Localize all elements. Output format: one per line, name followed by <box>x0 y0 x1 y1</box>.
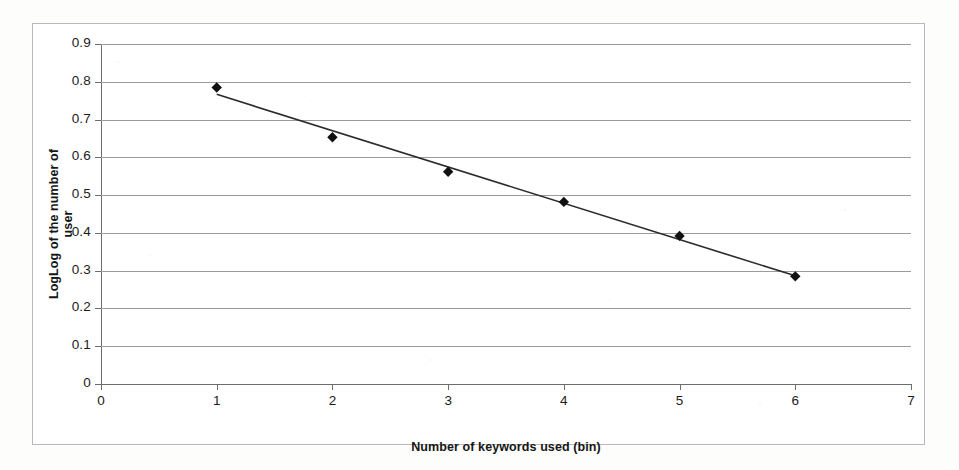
y-tick-label: 0.1 <box>29 337 91 352</box>
x-tick <box>564 384 565 390</box>
x-tick <box>680 384 681 390</box>
gridline <box>101 233 911 234</box>
x-axis-line <box>101 384 911 385</box>
gridline <box>101 271 911 272</box>
gridline <box>101 82 911 83</box>
gridline <box>101 157 911 158</box>
gridline <box>101 195 911 196</box>
x-tick-label: 7 <box>891 393 931 408</box>
x-tick-label: 6 <box>775 393 815 408</box>
chart-frame: 0.90.80.70.60.50.40.30.20.10 01234567 Nu… <box>32 23 925 445</box>
x-tick <box>448 384 449 390</box>
x-tick-label: 4 <box>544 393 584 408</box>
y-axis-title: LogLog of the number of user <box>47 134 75 314</box>
x-tick <box>795 384 796 390</box>
gridline <box>101 346 911 347</box>
x-tick <box>101 384 102 390</box>
x-tick-label: 2 <box>312 393 352 408</box>
y-tick-label: 0.7 <box>29 111 91 126</box>
x-tick-label: 5 <box>660 393 700 408</box>
x-tick-label: 3 <box>428 393 468 408</box>
gridline <box>101 120 911 121</box>
x-axis-title: Number of keywords used (bin) <box>101 440 911 454</box>
x-tick <box>217 384 218 390</box>
gridline <box>101 308 911 309</box>
y-tick-label: 0.8 <box>29 73 91 88</box>
scanned-page: 0.90.80.70.60.50.40.30.20.10 01234567 Nu… <box>0 0 959 470</box>
x-tick-label: 0 <box>81 393 121 408</box>
y-tick-label: 0 <box>29 375 91 390</box>
x-tick-label: 1 <box>197 393 237 408</box>
x-tick <box>332 384 333 390</box>
y-tick-label: 0.9 <box>29 35 91 50</box>
plot-area <box>101 44 911 384</box>
gridline <box>101 44 911 45</box>
x-tick <box>911 384 912 390</box>
